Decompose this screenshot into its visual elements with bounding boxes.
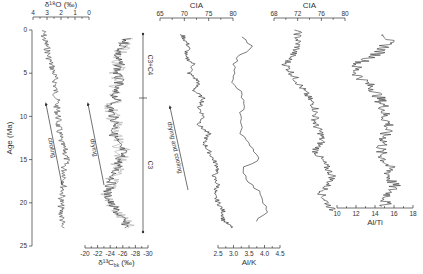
axis-tick: 4.5 xyxy=(275,250,284,257)
axis-tick: 65 xyxy=(156,10,164,17)
axis-tick: -24 xyxy=(105,250,115,257)
axis-title: δ¹³Cbk (‰) xyxy=(98,258,135,268)
axis-tick: 0 xyxy=(87,9,91,16)
drying-label: drying xyxy=(88,138,99,157)
paleoclimate-figure: 0510152025 Age (Ma) 43210δ¹⁸O (‰)-20-22-… xyxy=(0,0,423,274)
age-axis-label: Age (Ma) xyxy=(5,121,14,154)
axis-tick: -30 xyxy=(143,250,153,257)
age-tick: 25 xyxy=(20,242,28,249)
age-tick: 5 xyxy=(23,69,27,76)
c3c4-label: C3+C4 xyxy=(147,55,154,76)
axis-tick: 3.0 xyxy=(229,250,238,257)
axis-tick: 3.5 xyxy=(244,250,253,257)
axis-tick: 72 xyxy=(294,10,302,17)
data-curve xyxy=(181,34,233,228)
drying-arrow: drying xyxy=(88,104,104,185)
drying-cooling-arrow: drying and cooling xyxy=(166,107,188,190)
panel-d13c: -20-22-24-26-28-30δ¹³Cbk (‰) xyxy=(80,245,153,268)
axis-tick: 10 xyxy=(333,210,341,217)
axis-tick: 4.0 xyxy=(260,250,269,257)
drying-cooling-label: drying and cooling xyxy=(166,121,185,175)
data-curve xyxy=(232,37,268,222)
data-curve xyxy=(282,30,336,211)
panel-alk: 2.53.03.54.04.5Al/K xyxy=(213,245,284,267)
axis-tick: 18 xyxy=(409,210,417,217)
axis-tick: -28 xyxy=(131,250,141,257)
axis-tick: -22 xyxy=(93,250,103,257)
age-axis: 0510152025 Age (Ma) xyxy=(5,26,32,249)
axis-tick: 12 xyxy=(352,210,360,217)
axis-tick: -26 xyxy=(118,250,128,257)
axis-tick: 4 xyxy=(31,9,35,16)
axis-tick: 76 xyxy=(318,10,326,17)
age-tick: 10 xyxy=(20,113,28,120)
age-tick: 20 xyxy=(20,199,28,206)
cooling-label: cooling xyxy=(46,137,58,159)
axis-tick: 2 xyxy=(59,9,63,16)
axis-title: δ¹⁸O (‰) xyxy=(45,0,78,9)
age-tick: 15 xyxy=(20,156,28,163)
axis-tick: 80 xyxy=(229,10,237,17)
axis-title: CIA xyxy=(303,1,317,10)
axis-tick: 1 xyxy=(73,9,77,16)
data-curve xyxy=(41,30,69,228)
panel-cia1: 65707580CIA xyxy=(156,1,237,21)
axis-tick: 80 xyxy=(341,10,349,17)
axis-tick: 68 xyxy=(270,10,278,17)
c3-label: C3 xyxy=(147,161,154,170)
axis-tick: 3 xyxy=(45,9,49,16)
axis-title: Al/Ti xyxy=(367,218,383,227)
data-curve xyxy=(104,39,131,228)
axis-tick: 14 xyxy=(371,210,379,217)
age-tick: 0 xyxy=(23,26,27,33)
data-curve xyxy=(352,34,401,206)
axis-tick: 2.5 xyxy=(213,250,222,257)
axis-title: Al/K xyxy=(242,258,257,267)
axis-tick: 70 xyxy=(181,10,189,17)
panel-alti: 1012141618Al/Ti xyxy=(333,205,417,227)
axis-tick: 75 xyxy=(205,10,213,17)
axis-title: CIA xyxy=(190,1,204,10)
axis-tick: 16 xyxy=(390,210,398,217)
c3-c4-bracket: C3+C4 C3 xyxy=(139,33,154,233)
axis-tick: -20 xyxy=(80,250,90,257)
panel-d18o: 43210δ¹⁸O (‰) xyxy=(31,0,91,20)
panel-cia2: 68727680CIA xyxy=(270,1,349,21)
